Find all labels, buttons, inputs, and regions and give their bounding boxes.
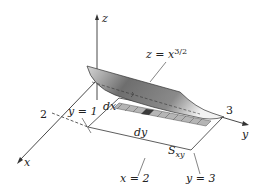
x-axis-label: x [24, 156, 31, 169]
surface-label: z = x3/2 [145, 47, 187, 61]
y-eq-1-label: y = 1 [67, 105, 97, 118]
y-tick-3: 3 [226, 104, 233, 117]
dy-label: dy [134, 126, 148, 139]
dx-label: dx [103, 100, 117, 113]
x-tick-2: 2 [40, 108, 47, 121]
y-eq-3-label: y = 3 [185, 172, 215, 185]
y-eq-3-leader [194, 153, 200, 174]
y-axis-label: y [241, 128, 249, 141]
z-axis [95, 14, 99, 100]
surface-diagram: z x 2 y 3 z = x3/2 dx dy y = [0, 0, 261, 192]
x-axis [17, 80, 97, 164]
surface-leader [150, 62, 166, 82]
x-eq-2-label: x = 2 [120, 172, 149, 185]
diagram-canvas: z x 2 y 3 z = x3/2 dx dy y = [0, 0, 261, 192]
z-axis-label: z [101, 12, 108, 25]
